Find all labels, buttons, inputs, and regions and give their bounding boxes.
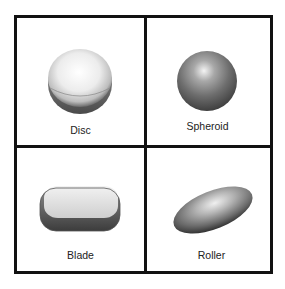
cell-blade: Blade — [17, 148, 144, 275]
shape-label-roller: Roller — [148, 249, 275, 261]
cell-roller: Roller — [147, 148, 274, 275]
shape-label-spheroid: Spheroid — [144, 120, 271, 132]
shape-label-disc: Disc — [17, 124, 144, 136]
shape-label-blade: Blade — [17, 249, 144, 261]
cell-disc: Disc — [17, 18, 144, 145]
cell-spheroid: Spheroid — [147, 18, 274, 145]
